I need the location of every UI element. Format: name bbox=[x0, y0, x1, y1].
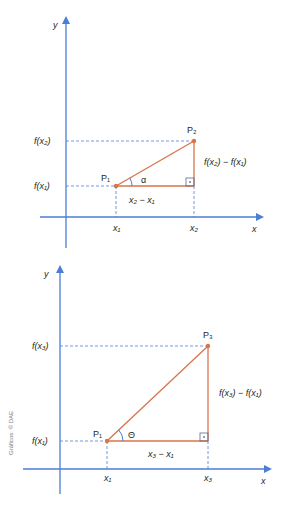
bottom-y-axis-label: y bbox=[43, 269, 49, 279]
top-label-p2: P₂ bbox=[187, 125, 197, 135]
bottom-angle-label: Θ bbox=[128, 430, 135, 440]
bottom-label-p1: P₁ bbox=[93, 429, 102, 439]
top-angle-label: α bbox=[141, 175, 146, 185]
top-y-axis-label: y bbox=[52, 20, 58, 30]
top-diagram: y x P₂ P₁ α f(x₂) f(x₁) x₁ x₂ x₂ − x₁ f(… bbox=[34, 18, 262, 248]
bottom-point-p3 bbox=[206, 344, 210, 348]
top-point-p1 bbox=[114, 184, 118, 188]
top-hypotenuse bbox=[116, 141, 194, 186]
top-vertical-leg-label: f(x₂) − f(x₁) bbox=[204, 157, 247, 167]
top-point-p2 bbox=[192, 139, 196, 143]
bottom-horizontal-leg-label: x₃ − x₁ bbox=[147, 449, 174, 459]
bottom-hypotenuse bbox=[107, 346, 208, 441]
top-ytick-fx1: f(x₁) bbox=[34, 181, 50, 191]
top-horizontal-leg-label: x₂ − x₁ bbox=[128, 195, 155, 205]
top-label-p1: P₁ bbox=[101, 173, 110, 183]
bottom-diagram: y x P₃ P₁ Θ f(x₃) f(x₁) x₁ x₃ x₃ − x₁ f(… bbox=[23, 267, 270, 494]
bottom-vertical-leg-label: f(x₃) − f(x₁) bbox=[219, 388, 262, 398]
bottom-xtick-x1: x₁ bbox=[103, 473, 112, 483]
bottom-x-axis-label: x bbox=[260, 476, 266, 486]
bottom-point-p1 bbox=[105, 439, 109, 443]
top-xtick-x2: x₂ bbox=[189, 223, 199, 233]
bottom-angle-arc bbox=[119, 430, 123, 441]
bottom-label-p3: P₃ bbox=[203, 330, 213, 340]
top-ytick-fx2: f(x₂) bbox=[34, 136, 50, 146]
bottom-ytick-fx1: f(x₁) bbox=[32, 436, 48, 446]
diagram-canvas: y x P₂ P₁ α f(x₂) f(x₁) x₁ x₂ x₂ − x₁ f(… bbox=[0, 0, 291, 509]
top-angle-arc bbox=[130, 178, 132, 186]
bottom-xtick-x3: x₃ bbox=[203, 473, 213, 483]
credit-text: Gráficos: © DAE bbox=[8, 411, 14, 455]
top-xtick-x1: x₁ bbox=[112, 223, 121, 233]
bottom-ytick-fx3: f(x₃) bbox=[32, 341, 49, 351]
top-x-axis-label: x bbox=[251, 224, 257, 234]
